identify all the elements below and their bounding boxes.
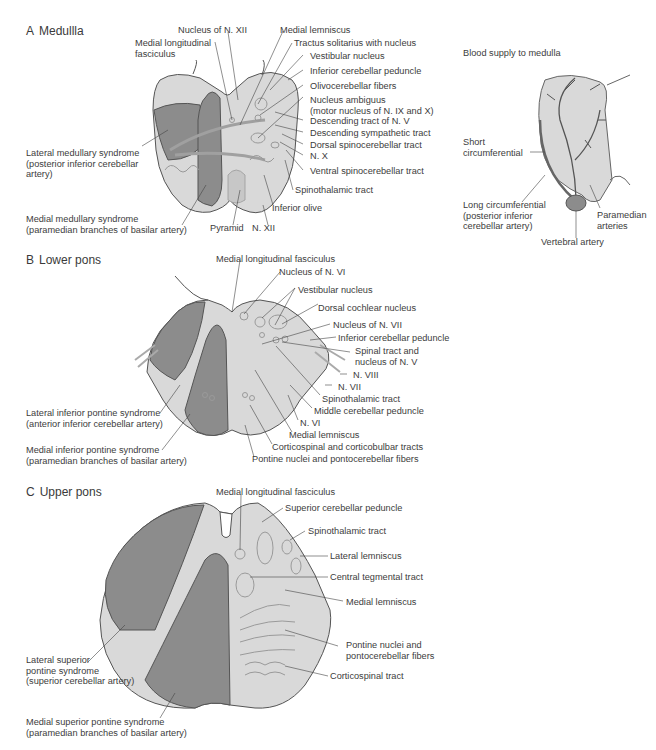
label-n-vi: N. VI	[300, 418, 320, 429]
label-vertebral-artery: Vertebral artery	[541, 237, 604, 248]
label-c-spinothalamic: Spinothalamic tract	[308, 526, 386, 537]
label-mlf: Medial longitudinal fasciculus	[135, 38, 211, 59]
label-c-mlf: Medial longitudinal fasciculus	[216, 487, 335, 498]
label-tractus-solitarius: Tractus solitarius with nucleus	[294, 38, 416, 49]
section-c-title: CUpper pons	[26, 485, 102, 499]
label-inferior-cerebellar-peduncle: Inferior cerebellar peduncle	[310, 66, 421, 77]
label-olivocerebellar-fibers: Olivocerebellar fibers	[310, 81, 396, 92]
label-n-vii: N. VII	[338, 382, 361, 393]
label-nucleus-xii: Nucleus of N. XII	[178, 25, 247, 36]
label-b-pontine-nuclei: Pontine nuclei and pontocerebellar fiber…	[252, 454, 419, 465]
section-b-title: BLower pons	[26, 253, 101, 267]
blood-supply-title: Blood supply to medulla	[463, 48, 561, 59]
label-c-corticospinal: Corticospinal tract	[330, 671, 404, 682]
label-dorsal-spinocerebellar: Dorsal spinocerebellar tract	[310, 140, 422, 151]
label-pyramid: Pyramid	[210, 223, 244, 234]
label-descending-tract-v: Descending tract of N. V	[310, 116, 410, 127]
label-middle-cerebellar-peduncle: Middle cerebellar peduncle	[314, 406, 424, 417]
label-medial-lemniscus: Medial lemniscus	[280, 25, 350, 36]
label-b-inferior-cerebellar-peduncle: Inferior cerebellar peduncle	[338, 333, 449, 344]
label-lateral-superior-pontine: Lateral superior pontine syndrome (super…	[26, 655, 134, 687]
label-nucleus-vi: Nucleus of N. VI	[279, 267, 345, 278]
label-spinothalamic: Spinothalamic tract	[295, 185, 373, 196]
label-medial-inferior-pontine: Medial inferior pontine syndrome (parame…	[26, 445, 187, 466]
label-n-viii: N. VIII	[353, 370, 379, 381]
label-lateral-inferior-pontine: Lateral inferior pontine syndrome (anter…	[26, 408, 163, 429]
label-c-pontine-nuclei: Pontine nuclei and pontocerebellar fiber…	[346, 640, 434, 661]
label-superior-cerebellar-peduncle: Superior cerebellar peduncle	[285, 503, 402, 514]
label-ventral-spinocerebellar: Ventral spinocerebellar tract	[310, 166, 424, 177]
label-b-corticospinal: Corticospinal and corticobulbar tracts	[272, 442, 423, 453]
label-inferior-olive: Inferior olive	[272, 203, 322, 214]
label-b-mlf: Medial longitudinal fasciculus	[216, 254, 335, 265]
label-descending-sympathetic: Descending sympathetic tract	[310, 128, 431, 139]
label-lateral-medullary-syndrome: Lateral medullary syndrome (posterior in…	[26, 148, 139, 180]
label-lateral-lemniscus: Lateral lemniscus	[330, 551, 402, 562]
label-paramedian-arteries: Paramedian arteries	[597, 210, 647, 231]
label-nucleus-vii: Nucleus of N. VII	[333, 320, 402, 331]
section-a-title: AMedullla	[26, 24, 84, 38]
label-n-xii: N. XII	[252, 223, 275, 234]
label-b-medial-lemniscus: Medial lemniscus	[289, 430, 359, 441]
label-n-x: N. X	[310, 151, 328, 162]
label-dorsal-cochlear: Dorsal cochlear nucleus	[318, 303, 416, 314]
label-medial-medullary-syndrome: Medial medullary syndrome (paramedian br…	[26, 214, 187, 235]
label-spinal-tract-v: Spinal tract and nucleus of N. V	[355, 346, 419, 367]
label-long-circumferential: Long circumferential (posterior inferior…	[463, 200, 546, 232]
label-short-circumferential: Short circumferential	[463, 137, 523, 158]
label-c-medial-lemniscus: Medial lemniscus	[346, 597, 416, 608]
label-medial-superior-pontine: Medial superior pontine syndrome (parame…	[26, 717, 187, 738]
label-vestibular-nucleus: Vestibular nucleus	[310, 51, 385, 62]
medulla-section	[142, 31, 303, 225]
label-b-spinothalamic: Spinothalamic tract	[322, 394, 400, 405]
label-nucleus-ambiguus: Nucleus ambiguus (motor nucleus of N. IX…	[310, 95, 434, 116]
label-b-vestibular: Vestibular nucleus	[298, 285, 373, 296]
label-central-tegmental: Central tegmental tract	[330, 572, 423, 583]
